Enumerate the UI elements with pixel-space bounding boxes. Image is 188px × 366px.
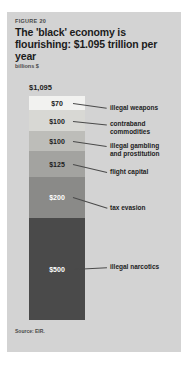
- chart-plot-area: $1,095 $70$100$100$125$200$500 illegal w…: [7, 12, 181, 352]
- figure-card: FIGURE 20 The 'black' economy is flouris…: [7, 12, 181, 352]
- callout-label: tax evasion: [110, 204, 145, 212]
- callout-label: flight capital: [110, 168, 148, 176]
- callout-label: illegal gambling and prostitution: [110, 142, 159, 157]
- callout-label: illegal weapons: [110, 104, 158, 112]
- stacked-bar: $70$100$100$125$200$500: [29, 96, 85, 320]
- total-value-label: $1,095: [29, 83, 52, 92]
- callout-label: illegal narcotics: [110, 263, 159, 271]
- source-note: Source: EIR.: [15, 328, 45, 334]
- callout-label: contraband commodities: [110, 120, 150, 135]
